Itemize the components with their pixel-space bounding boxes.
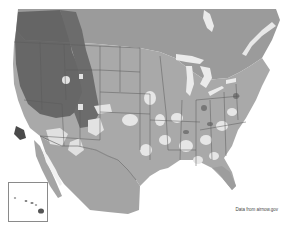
low-zone — [200, 135, 212, 145]
low-zone — [209, 152, 219, 160]
moderate-zone — [201, 105, 207, 111]
hawaii-inset-frame — [8, 182, 48, 222]
low-zone — [78, 104, 83, 110]
low-zone — [79, 74, 83, 79]
low-zone — [62, 76, 70, 84]
moderate-zone — [183, 130, 189, 134]
low-zone — [193, 156, 203, 164]
moderate-zone — [207, 122, 213, 126]
low-zone — [159, 135, 171, 145]
data-source-caption: Data from airnow.gov — [235, 207, 278, 212]
low-zone — [227, 108, 237, 116]
low-zone — [155, 114, 165, 126]
low-zone — [122, 114, 138, 126]
